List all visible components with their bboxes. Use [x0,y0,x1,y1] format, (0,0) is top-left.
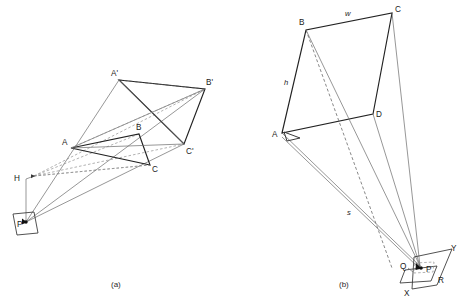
label-point-Q: Q [400,262,406,271]
panel-b-group: A B C D Q P X Y R w h s [272,5,457,298]
dashed-base-left [34,165,150,176]
label-point-B-b: B [299,18,305,27]
panel-a-group: A B C A' B' C' H P [13,69,213,235]
label-point-C-b: C [395,5,401,14]
right-angle-marker-a [284,132,300,141]
triangle-a-prime-b-prime-c-prime [119,80,205,144]
ray-c-to-plane [392,13,420,266]
ray-p-to-b-prime [26,89,205,222]
label-point-A-prime: A' [111,69,118,78]
label-point-D-b: D [376,110,382,119]
label-point-B-prime: B' [206,78,213,87]
label-point-X: X [404,289,410,298]
panel-a-tie-lines [34,80,205,176]
label-point-A-b: A [272,130,278,139]
ray-a-secondary [282,137,419,268]
label-point-P-b: P [426,265,432,274]
caption-a: (a) [111,280,121,289]
label-point-P-a: P [17,220,23,229]
panel-b-rectangle [282,13,392,268]
label-point-A-a: A [62,138,68,147]
angle-tick-a [284,132,300,141]
figure-container: A B C A' B' C' H P [0,0,461,303]
label-dimension-h: h [284,78,288,87]
label-point-Y: Y [451,244,457,253]
ray-p-to-a-prime [26,80,119,222]
dashed-h-to-b [34,134,139,176]
label-point-B-a: B [136,123,142,132]
label-point-C-a: C [152,165,158,174]
edge-dup-ap-bp [119,80,205,89]
panel-a-image-triangle [119,80,205,144]
q-leader-line [408,268,413,272]
label-dimension-s: s [347,208,351,217]
panel-b-projection-rays [282,13,420,268]
label-point-R: R [438,276,444,285]
dashed-b-to-plane [306,30,392,268]
dashed-h-to-b-prime [34,89,205,176]
label-dimension-w: w [345,9,351,18]
panel-a-horizon-lines [34,89,205,176]
ray-b-to-plane [306,30,420,266]
label-point-C-prime: C' [186,147,194,156]
caption-b: (b) [339,280,349,289]
geometry-diagram: A B C A' B' C' H P [0,0,461,303]
label-point-H: H [14,174,20,183]
panel-a-projection-rays [26,80,205,222]
